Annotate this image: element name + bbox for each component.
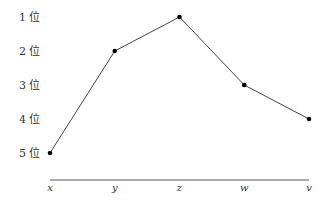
data-point [307,117,312,122]
data-point [48,151,53,156]
y-axis-tick-labels: 1 位2 位3 位4 位5 位 [19,10,41,160]
x-tick-label: w [240,182,249,193]
y-tick-label: 1 位 [19,10,41,24]
y-tick-label: 5 位 [19,146,41,160]
data-point [112,49,117,54]
x-tick-label: v [306,182,312,193]
x-tick-label: y [111,182,118,193]
data-point-markers [48,15,312,156]
x-tick-label: x [47,182,53,193]
series-line [50,17,309,153]
y-tick-label: 2 位 [19,44,41,58]
y-tick-label: 4 位 [19,112,41,126]
x-tick-label: z [176,182,183,193]
x-axis-tick-labels: xyzwv [47,182,312,193]
data-point [242,83,247,88]
rank-line-chart: 1 位2 位3 位4 位5 位 xyzwv [0,0,325,202]
data-point [177,15,182,20]
y-tick-label: 3 位 [19,78,41,92]
